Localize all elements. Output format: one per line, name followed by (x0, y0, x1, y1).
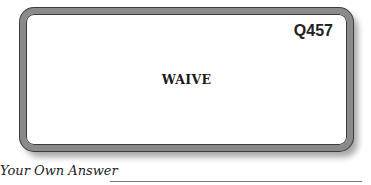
flashcard: Q457 WAIVE (20, 8, 353, 151)
answer-line[interactable] (110, 181, 362, 182)
card-word: WAIVE (26, 72, 347, 87)
question-id: Q457 (294, 22, 333, 40)
answer-label: Your Own Answer (0, 163, 118, 178)
